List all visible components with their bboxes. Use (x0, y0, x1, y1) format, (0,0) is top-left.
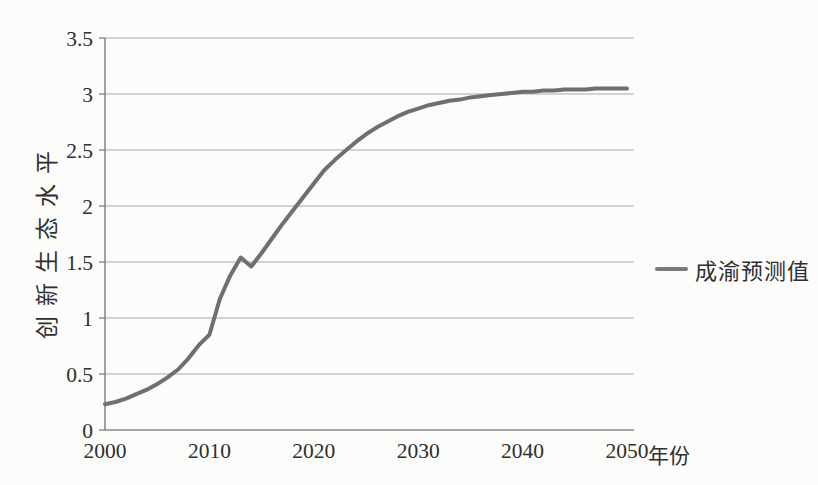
legend: 成渝预测值 (655, 253, 810, 285)
y-tick-label-3.5: 3.5 (66, 27, 93, 51)
y-tick-label-3: 3 (82, 83, 93, 107)
x-tick-label-2050: 2050 (606, 439, 649, 463)
y-axis-title: 创新生态水平 (28, 141, 62, 339)
y-tick-label-2.5: 2.5 (66, 139, 93, 163)
x-axis-unit-label: 年份 (648, 439, 690, 469)
forecast-line-chart: 00.511.522.533.5200020102020203020402050… (0, 0, 818, 485)
y-tick-label-2: 2 (82, 195, 93, 219)
y-tick-label-1: 1 (82, 307, 93, 331)
y-tick-label-0.5: 0.5 (66, 363, 93, 387)
x-tick-label-2040: 2040 (501, 439, 544, 463)
x-tick-label-2020: 2020 (292, 439, 335, 463)
x-tick-label-2000: 2000 (84, 439, 127, 463)
legend-series-label: 成渝预测值 (695, 253, 810, 285)
legend-line-icon (655, 267, 688, 271)
x-tick-label-2030: 2030 (397, 439, 440, 463)
plot-area: 00.511.522.533.5200020102020203020402050 (0, 0, 818, 485)
y-tick-label-1.5: 1.5 (66, 251, 93, 275)
x-tick-label-2010: 2010 (188, 439, 231, 463)
series-line-0 (105, 88, 627, 404)
